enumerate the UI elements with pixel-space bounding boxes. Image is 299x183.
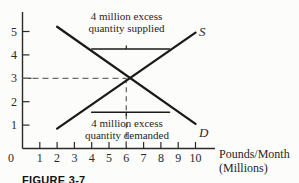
x-tick-label-5: 5 — [106, 152, 112, 164]
excess-demand-annotation: 4 million excess quantity demanded — [78, 117, 176, 142]
x-tick-label-6: 6 — [123, 152, 129, 164]
x-tick-label-9: 9 — [175, 152, 181, 164]
excess-demand-annotation-line2: quantity demanded — [78, 129, 176, 141]
x-axis-title-line1: Pounds/Month — [219, 148, 290, 162]
axis-origin-label: 0 — [8, 152, 14, 164]
x-tick-label-8: 8 — [158, 152, 164, 164]
y-tick-label-4: 4 — [11, 49, 17, 61]
x-tick-label-7: 7 — [141, 152, 147, 164]
x-tick-label-3: 3 — [71, 152, 77, 164]
supply-curve-label: S — [199, 25, 206, 38]
supply-demand-figure: 5 4 3 2 1 0 1 2 3 4 5 6 7 8 9 10 S D 4 m… — [0, 0, 299, 183]
x-axis-title: Pounds/Month (Millions) — [219, 148, 290, 176]
y-tick-label-3: 3 — [11, 72, 17, 84]
figure-caption: FIGURE 3-7 — [22, 174, 86, 183]
y-tick-label-2: 2 — [11, 96, 17, 108]
y-tick-label-1: 1 — [11, 119, 17, 131]
excess-supply-annotation-line2: quantity supplied — [80, 22, 173, 34]
demand-curve-label: D — [199, 126, 208, 139]
y-tick-label-5: 5 — [11, 26, 17, 38]
excess-supply-annotation: 4 million excess quantity supplied — [80, 10, 173, 35]
x-tick-label-4: 4 — [89, 152, 95, 164]
excess-demand-annotation-line1: 4 million excess — [78, 117, 176, 129]
excess-demand-span — [92, 112, 170, 116]
excess-supply-span — [92, 45, 170, 49]
x-tick-label-2: 2 — [54, 152, 60, 164]
excess-supply-annotation-line1: 4 million excess — [80, 10, 173, 22]
x-tick-label-1: 1 — [37, 152, 43, 164]
x-axis-title-line2: (Millions) — [219, 162, 290, 176]
x-tick-label-10: 10 — [190, 152, 202, 164]
x-axis-ticks — [40, 142, 196, 149]
